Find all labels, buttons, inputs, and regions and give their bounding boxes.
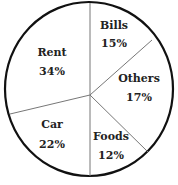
slice-value-others: 17% [126, 91, 152, 104]
slice-value-car: 22% [39, 138, 65, 151]
slice-value-rent: 34% [39, 65, 65, 78]
slice-label-bills: Bills [100, 19, 128, 32]
slice-value-foods: 12% [98, 149, 124, 162]
pie-chart: Bills15%Others17%Foods12%Car22%Rent34% [0, 0, 178, 185]
slice-label-others: Others [118, 72, 160, 85]
slice-label-car: Car [41, 118, 63, 131]
slice-label-rent: Rent [37, 46, 67, 59]
slice-value-bills: 15% [101, 37, 127, 50]
slice-label-foods: Foods [93, 130, 129, 143]
pie-outline [5, 2, 173, 176]
